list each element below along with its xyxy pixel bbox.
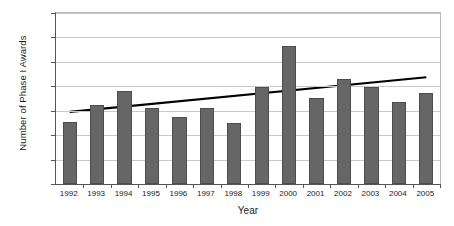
y-axis-title: Number of Phase I Awards: [16, 0, 30, 186]
x-tick-label: 2001: [307, 189, 325, 198]
x-tick-label: 1997: [197, 189, 215, 198]
x-tick-label: 2004: [389, 189, 407, 198]
plot-area: [55, 12, 441, 185]
y-tick-mark: [51, 62, 56, 63]
x-tick-mark: [248, 184, 249, 188]
gridline: [56, 86, 440, 87]
bar: [145, 108, 159, 184]
x-tick-mark: [358, 184, 359, 188]
y-tick-mark: [51, 135, 56, 136]
x-tick-label: 2002: [334, 189, 352, 198]
x-tick-label: 2003: [362, 189, 380, 198]
trendline: [56, 13, 440, 184]
x-tick-mark: [166, 184, 167, 188]
bar: [282, 46, 296, 184]
bar: [90, 105, 104, 184]
x-tick-mark: [193, 184, 194, 188]
x-tick-label: 2000: [279, 189, 297, 198]
bar: [117, 91, 131, 184]
x-tick-mark: [138, 184, 139, 188]
x-tick-mark: [275, 184, 276, 188]
bar: [309, 98, 323, 184]
gridline: [56, 62, 440, 63]
bar: [63, 122, 77, 184]
x-tick-label: 1996: [170, 189, 188, 198]
x-axis-title: Year: [55, 205, 441, 216]
bar: [227, 123, 241, 184]
gridline: [56, 160, 440, 161]
gridline: [56, 37, 440, 38]
x-tick-mark: [385, 184, 386, 188]
gridline: [56, 135, 440, 136]
x-tick-mark: [111, 184, 112, 188]
x-tick-label: 1995: [142, 189, 160, 198]
bar: [255, 87, 269, 184]
bar: [419, 93, 433, 184]
gridline: [56, 13, 440, 14]
x-tick-mark: [83, 184, 84, 188]
bar: [337, 79, 351, 184]
y-tick-mark: [51, 184, 56, 185]
x-tick-label: 1992: [60, 189, 78, 198]
x-tick-mark: [440, 184, 441, 188]
y-tick-mark: [51, 111, 56, 112]
x-tick-label: 1993: [87, 189, 105, 198]
x-tick-mark: [303, 184, 304, 188]
x-tick-label: 1994: [115, 189, 133, 198]
x-tick-mark: [221, 184, 222, 188]
x-tick-mark: [413, 184, 414, 188]
y-tick-mark: [51, 37, 56, 38]
y-tick-mark: [51, 13, 56, 14]
x-tick-label: 2005: [416, 189, 434, 198]
y-tick-mark: [51, 86, 56, 87]
bar: [200, 108, 214, 184]
x-tick-label: 1999: [252, 189, 270, 198]
bar: [172, 117, 186, 184]
bar: [364, 87, 378, 184]
x-tick-label: 1998: [224, 189, 242, 198]
x-tick-mark: [330, 184, 331, 188]
bar-chart: Number of Phase I Awards Year 0100200300…: [0, 0, 454, 226]
gridline: [56, 111, 440, 112]
bar: [392, 102, 406, 184]
y-tick-mark: [51, 160, 56, 161]
